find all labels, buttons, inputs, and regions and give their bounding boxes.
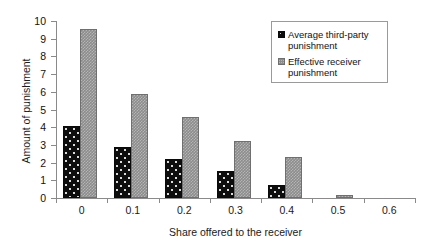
x-axis-tick-label: 0.2 bbox=[162, 204, 206, 216]
y-axis-tick bbox=[51, 21, 56, 22]
y-axis-tick bbox=[51, 39, 56, 40]
y-axis-tick bbox=[51, 145, 56, 146]
legend-entry-average-third-party-punishment: Average third-party punishment bbox=[278, 29, 386, 51]
y-axis-tick bbox=[51, 56, 56, 57]
bar-series-2-0.2 bbox=[182, 117, 199, 198]
y-axis-tick-label: 10 bbox=[20, 16, 46, 26]
bar-series-2-0.4 bbox=[285, 157, 302, 198]
bar-series-1-0.3 bbox=[217, 171, 234, 198]
x-axis-tick bbox=[210, 198, 211, 203]
legend-swatch-icon-series-1 bbox=[278, 31, 285, 38]
x-axis-tick bbox=[159, 198, 160, 203]
x-axis-tick-label: 0 bbox=[60, 204, 104, 216]
y-axis-tick bbox=[51, 74, 56, 75]
bar-series-2-0 bbox=[80, 29, 97, 198]
x-axis-tick-label: 0.4 bbox=[265, 204, 309, 216]
y-axis-tick bbox=[51, 110, 56, 111]
x-axis-title: Share offered to the receiver bbox=[56, 226, 415, 238]
x-axis-tick-label: 0.1 bbox=[111, 204, 155, 216]
legend-entry-effective-receiver-punishment: Effective receiver punishment bbox=[278, 56, 386, 78]
bar-series-2-0.1 bbox=[131, 94, 148, 198]
bar-series-2-0.5 bbox=[336, 195, 353, 198]
y-axis-tick bbox=[51, 92, 56, 93]
x-axis-tick bbox=[312, 198, 313, 203]
x-axis-tick bbox=[56, 198, 57, 203]
legend-label-series-2: Effective receiver punishment bbox=[288, 56, 386, 78]
x-axis-tick-label: 0.6 bbox=[367, 204, 411, 216]
y-axis-tick bbox=[51, 163, 56, 164]
legend-swatch-icon-series-2 bbox=[278, 58, 285, 65]
x-axis-tick bbox=[364, 198, 365, 203]
x-axis-tick bbox=[261, 198, 262, 203]
x-axis-tick-label: 0.5 bbox=[316, 204, 360, 216]
legend: Average third-party punishment Effective… bbox=[271, 21, 388, 83]
bar-series-1-0.2 bbox=[165, 159, 182, 198]
bar-series-1-0 bbox=[63, 126, 80, 198]
y-axis-tick-label: 0 bbox=[20, 193, 46, 203]
y-axis-tick bbox=[51, 127, 56, 128]
bar-series-1-0.1 bbox=[114, 147, 131, 198]
bar-series-1-0.4 bbox=[268, 185, 285, 198]
bar-chart: 012345678910 00.10.20.30.40.50.6 Amount … bbox=[0, 0, 423, 246]
bar-series-2-0.3 bbox=[234, 141, 251, 198]
x-axis-tick bbox=[415, 198, 416, 203]
y-axis-title: Amount of punishment bbox=[20, 31, 32, 191]
x-axis-tick-label: 0.3 bbox=[214, 204, 258, 216]
legend-label-series-1: Average third-party punishment bbox=[288, 29, 386, 51]
x-axis-line bbox=[56, 198, 415, 199]
x-axis-tick bbox=[107, 198, 108, 203]
y-axis-tick bbox=[51, 180, 56, 181]
